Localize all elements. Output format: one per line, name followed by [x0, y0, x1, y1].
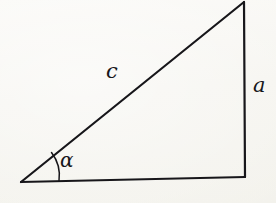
triangle-drawing	[0, 0, 276, 203]
side-label-a: a	[253, 75, 266, 96]
vertical-side-line-a	[244, 2, 245, 177]
hypotenuse-line-c	[21, 2, 244, 182]
angle-label-alpha: α	[60, 150, 74, 170]
base-side-line	[21, 177, 245, 182]
triangle-figure: c a α	[0, 0, 276, 203]
side-label-c: c	[106, 61, 118, 82]
